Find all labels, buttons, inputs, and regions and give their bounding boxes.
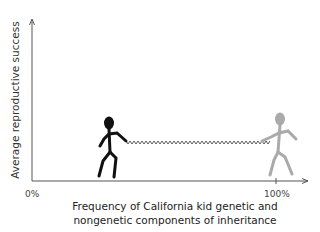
black-stick-figure [99, 117, 126, 178]
gray-stick-figure [262, 113, 296, 176]
x-axis-label-line2: nongenetic components of inheritance [50, 213, 300, 227]
x-axis-label-line1: Frequency of California kid genetic and [50, 199, 300, 213]
y-axis-label: Average reproductive success [9, 15, 21, 185]
axes [30, 19, 309, 184]
x-tick-100: 100% [264, 189, 290, 199]
x-axis-label: Frequency of California kid genetic and … [50, 199, 300, 227]
x-tick-0: 0% [25, 189, 39, 199]
spring-connector [126, 141, 270, 144]
